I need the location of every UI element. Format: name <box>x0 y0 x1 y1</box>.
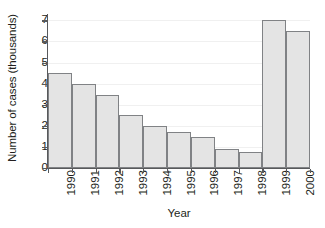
y-axis-tick-mark <box>42 126 47 127</box>
x-axis-tick-label: 1994 <box>161 170 173 210</box>
y-axis-title: Number of cases (thousands) <box>0 0 24 175</box>
x-axis-tick-label: 1991 <box>89 170 101 210</box>
bar <box>119 115 143 168</box>
bar <box>72 84 96 168</box>
x-axis-tick-mark <box>167 169 168 173</box>
bar <box>191 137 215 168</box>
x-axis-tick-label: 1993 <box>137 170 149 210</box>
bar <box>48 73 72 168</box>
bar <box>239 152 263 168</box>
x-axis-tick-mark <box>286 169 287 173</box>
bar <box>143 126 167 168</box>
x-axis-tick-label: 1996 <box>208 170 220 210</box>
x-axis-tick-mark <box>310 169 311 173</box>
bar <box>167 132 191 168</box>
x-axis-tick-label: 1999 <box>280 170 292 210</box>
x-axis-tick-label: 1992 <box>113 170 125 210</box>
x-axis-tick-mark <box>143 169 144 173</box>
bar <box>215 149 239 168</box>
y-axis-tick-mark <box>42 105 47 106</box>
bar <box>262 20 286 168</box>
bar-chart-figure: Number of cases (thousands) 01234567 199… <box>0 0 325 228</box>
x-axis-tick-label: 2000 <box>304 170 316 210</box>
bars-group <box>48 14 310 168</box>
x-axis-tick-mark <box>72 169 73 173</box>
bar <box>96 95 120 168</box>
x-axis-tick-mark <box>262 169 263 173</box>
x-axis-tick-mark <box>119 169 120 173</box>
x-axis-tick-label: 1998 <box>256 170 268 210</box>
y-axis-tick-mark <box>42 41 47 42</box>
x-axis-tick-label: 1997 <box>232 170 244 210</box>
y-axis-tick-mark <box>42 63 47 64</box>
x-axis-tick-mark <box>215 169 216 173</box>
y-axis-tick-mark <box>42 20 47 21</box>
x-axis-title: Year <box>48 207 310 219</box>
x-axis-tick-label: 1995 <box>185 170 197 210</box>
bar <box>286 31 310 168</box>
x-axis-tick-mark <box>96 169 97 173</box>
x-axis-tick-label: 1990 <box>65 170 77 210</box>
x-axis-tick-mark <box>191 169 192 173</box>
x-axis-tick-mark <box>48 169 49 173</box>
y-axis-title-text: Number of cases (thousands) <box>6 13 18 161</box>
y-axis-tick-mark <box>42 168 47 169</box>
x-axis-tick-mark <box>239 169 240 173</box>
y-axis-tick-mark <box>42 147 47 148</box>
y-axis-tick-labels: 01234567 <box>24 0 48 228</box>
y-axis-tick-mark <box>42 84 47 85</box>
